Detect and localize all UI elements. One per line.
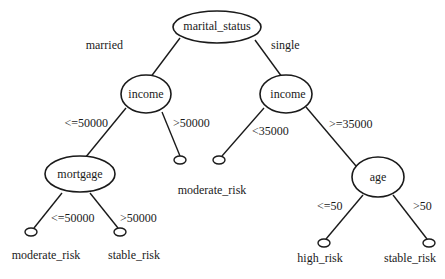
node-age: age: [352, 157, 404, 197]
leaf-marker: [174, 156, 186, 164]
edge-label: <=50: [317, 199, 343, 213]
edge-income-right-ge: [306, 107, 356, 166]
edge-label: <=50000: [51, 211, 95, 225]
node-label: income: [270, 87, 305, 101]
leaf-marker: [423, 239, 435, 247]
edge-label: >50000: [173, 116, 210, 130]
node-mortgage: mortgage: [45, 156, 115, 192]
leaf-marker: [25, 228, 37, 236]
node-marital-status: marital_status: [173, 11, 261, 43]
edge-label: >50: [413, 199, 432, 213]
leaf-marker: [318, 239, 330, 247]
edge-label: >50000: [120, 211, 157, 225]
node-income-right: income: [260, 75, 312, 113]
leaf-marker: [114, 228, 126, 236]
edge-label: <=50000: [64, 116, 108, 130]
leaf-marker: [213, 156, 225, 164]
edge-married: [150, 38, 180, 78]
leaf-label: stable_risk: [108, 248, 160, 262]
edge-label: <35000: [252, 124, 289, 138]
leaf-label: stable_risk: [384, 251, 436, 265]
leaf-label: high_risk: [297, 251, 342, 265]
edge-label-single: single: [271, 38, 300, 52]
edge-label-married: married: [86, 38, 123, 52]
node-label: age: [370, 170, 387, 184]
node-label: mortgage: [57, 167, 102, 181]
edge-label: >=35000: [329, 117, 373, 131]
leaf-label: moderate_risk: [178, 183, 247, 197]
decision-tree-diagram: marital_status income income mortgage ag…: [0, 0, 445, 279]
leaf-label: moderate_risk: [12, 248, 81, 262]
node-label: marital_status: [183, 19, 251, 33]
node-income-left: income: [121, 75, 171, 113]
node-label: income: [128, 87, 163, 101]
